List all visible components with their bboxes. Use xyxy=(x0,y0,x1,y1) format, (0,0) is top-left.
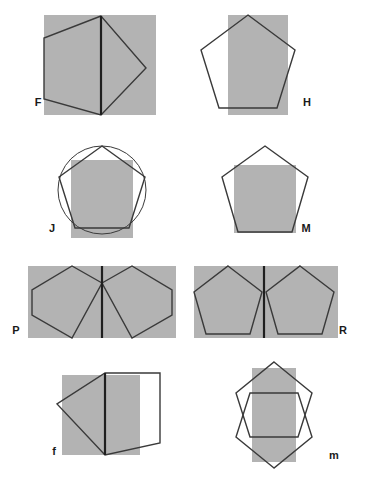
figure-m-rect xyxy=(252,368,296,462)
figure-f-label: f xyxy=(52,445,56,457)
figure-M-label: M xyxy=(301,222,310,234)
figure-P: P xyxy=(12,266,176,338)
figure-R: R xyxy=(194,266,347,338)
figure-H-label: H xyxy=(303,96,311,108)
figure-M-rect xyxy=(234,165,296,233)
figure-J-rect xyxy=(71,160,133,238)
figure-sheet: FHJMPRfm xyxy=(0,0,366,483)
figure-R-label: R xyxy=(339,324,347,336)
figure-f-rect xyxy=(62,375,140,455)
figure-R-rect xyxy=(194,266,338,338)
figure-m-label: m xyxy=(329,449,339,461)
figures-canvas: FHJMPRfm xyxy=(0,0,366,483)
figure-J-label: J xyxy=(49,222,55,234)
figure-F: F xyxy=(35,15,156,115)
figure-P-label: P xyxy=(12,324,19,336)
figure-F-label: F xyxy=(35,96,42,108)
